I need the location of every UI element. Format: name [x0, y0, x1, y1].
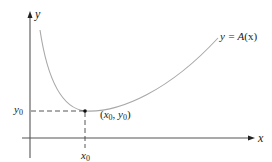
- curve-label: y = A(x): [220, 31, 257, 42]
- minimum-point-dot: [83, 109, 87, 113]
- x0-tick-label: x0: [81, 150, 90, 162]
- x-axis-arrow-icon: [248, 136, 255, 141]
- y-axis-arrow-icon: [28, 11, 33, 18]
- y0-tick-label: y0: [14, 104, 23, 117]
- curve-label-lhs: y =: [220, 30, 238, 42]
- function-curve: [40, 30, 218, 111]
- curve-label-arg: (x): [244, 30, 257, 42]
- y-axis-label: y: [35, 8, 40, 20]
- x0-sub: 0: [86, 154, 90, 162]
- diagram-canvas: [0, 0, 272, 162]
- y0-sub: 0: [19, 108, 23, 117]
- paren-close: ): [127, 108, 131, 120]
- minimum-point-label: (x0, y0): [100, 109, 131, 122]
- x-axis-label: x: [258, 132, 263, 144]
